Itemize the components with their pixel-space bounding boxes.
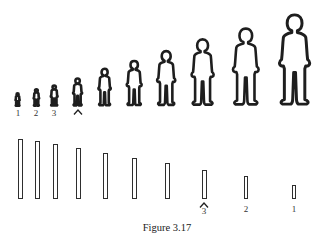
vertical-bar bbox=[103, 153, 108, 199]
person-silhouette-icon bbox=[50, 85, 58, 106]
figure-label-3: 3 bbox=[52, 109, 57, 118]
vertical-bar bbox=[202, 170, 207, 199]
bar-label-3: 3 bbox=[202, 207, 207, 216]
vertical-bar bbox=[244, 176, 249, 199]
vertical-bar bbox=[18, 139, 23, 199]
person-silhouette-icon bbox=[97, 68, 112, 106]
person-silhouette-icon bbox=[276, 13, 313, 106]
caret-up-icon bbox=[73, 109, 83, 115]
person-silhouette-icon bbox=[230, 27, 262, 106]
person-silhouette-icon bbox=[125, 60, 143, 106]
person-silhouette-icon bbox=[15, 93, 20, 106]
person-silhouette-icon bbox=[33, 89, 40, 106]
vertical-bar bbox=[132, 158, 137, 199]
vertical-bar bbox=[76, 148, 81, 199]
figure-label-2: 2 bbox=[34, 109, 39, 118]
person-silhouette-icon bbox=[189, 38, 216, 106]
figure-label-1: 1 bbox=[16, 109, 21, 118]
vertical-bar bbox=[165, 163, 170, 199]
vertical-bar bbox=[53, 144, 58, 199]
vertical-bar bbox=[292, 185, 297, 199]
bar-label-1: 1 bbox=[292, 205, 297, 214]
vertical-bar bbox=[35, 141, 40, 199]
person-silhouette-icon bbox=[155, 50, 177, 106]
figure-caption: Figure 3.17 bbox=[0, 222, 334, 233]
person-silhouette-icon bbox=[72, 78, 83, 106]
bar-label-2: 2 bbox=[244, 205, 249, 214]
